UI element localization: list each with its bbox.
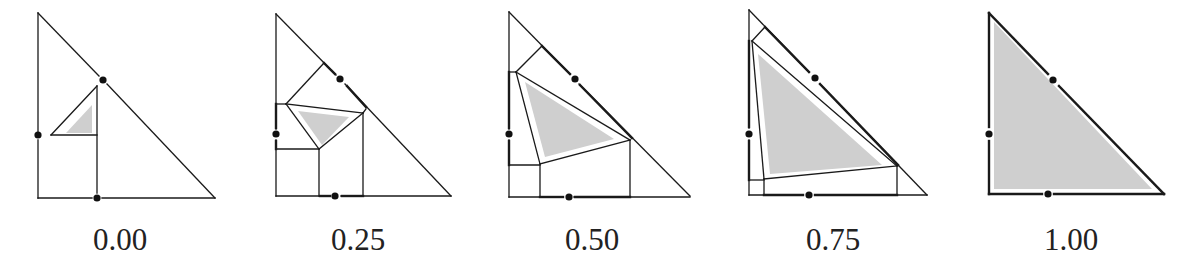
dot-icon: [34, 131, 41, 138]
dot-icon: [331, 192, 338, 199]
panel-label: 0.25: [298, 222, 418, 258]
shaded-triangle: [994, 22, 1152, 189]
dot-icon: [565, 193, 572, 200]
dot-icon: [93, 194, 100, 201]
dot-icon: [571, 75, 578, 82]
shaded-triangle: [758, 54, 882, 174]
panel-label: 1.00: [1011, 222, 1131, 258]
panel-label: 0.75: [773, 222, 893, 258]
dot-icon: [985, 130, 992, 137]
panel-0-25: [276, 14, 451, 196]
panel-0-50: [509, 12, 690, 197]
shaded-triangle: [525, 82, 614, 157]
dot-icon: [336, 75, 343, 82]
dot-icon: [272, 130, 279, 137]
dot-icon: [99, 76, 106, 83]
dot-icon: [745, 130, 752, 137]
panel-label: 0.50: [532, 222, 652, 258]
panel-label: 0.00: [60, 222, 180, 258]
dot-icon: [1044, 190, 1051, 197]
dot-icon: [505, 130, 512, 137]
panel-0-75: [749, 10, 927, 195]
shaded-triangle: [298, 111, 349, 145]
dot-icon: [1049, 76, 1056, 83]
dot-icon: [805, 191, 812, 198]
dot-icon: [811, 74, 818, 81]
shaded-triangle: [66, 105, 92, 133]
panel-0-00: [38, 13, 215, 198]
panel-1-00: [989, 13, 1164, 194]
